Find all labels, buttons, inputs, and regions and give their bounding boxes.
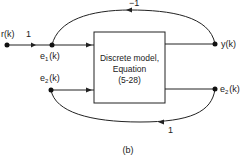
gain-feedback-bottom: 1: [168, 125, 173, 135]
label-y: y(k): [221, 39, 236, 49]
arrow-r-to-e1: [31, 43, 36, 48]
label-e1: e1(k): [40, 51, 60, 62]
node-e1: [50, 43, 55, 48]
block-text-line1: Discrete model,: [100, 53, 159, 63]
block-text-line3: (5-28): [118, 75, 141, 85]
node-r: [5, 43, 10, 48]
arrow-e2-to-block: [86, 88, 92, 93]
figure-caption: (b): [123, 145, 134, 155]
node-e2-right: [213, 87, 218, 92]
gain-r-to-e1: 1: [26, 29, 31, 39]
node-y: [213, 42, 218, 47]
block-text-line2: Equation: [113, 64, 147, 74]
arrow-e1-to-block: [86, 43, 92, 48]
label-e2-left: e2(k): [40, 73, 60, 84]
arrow-feedback-top: [126, 8, 132, 13]
node-e2-left: [49, 88, 54, 93]
label-e2-right: e2(k): [220, 84, 240, 95]
label-r: r(k): [1, 29, 15, 39]
gain-feedback-top: −1: [129, 0, 139, 8]
signal-flow-diagram: Discrete model, Equation (5-28) 1 −1 1 r…: [0, 0, 244, 157]
arrow-feedback-bottom: [158, 120, 164, 125]
